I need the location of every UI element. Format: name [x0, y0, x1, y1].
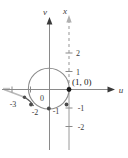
- x-axis-label: x: [62, 6, 67, 16]
- tick-label-u-neg3: -3: [10, 100, 17, 109]
- point-1-0: [67, 87, 72, 92]
- tick-label-x-pos1: 1: [76, 68, 80, 77]
- tick-label-x-neg1: -1: [78, 104, 85, 113]
- pointer-line: [3, 89, 26, 99]
- coordinate-diagram: v x u 0 (1, 0) -1 -2 -3 2 1 -1 -2: [0, 0, 128, 158]
- tick-label-u-neg2: -2: [32, 108, 39, 117]
- v-axis: [47, 17, 53, 150]
- v-axis-label: v: [43, 7, 47, 17]
- arc-tail: [25, 97, 34, 106]
- x-axis-dashed: [66, 15, 71, 150]
- tick-label-u-neg1: -1: [53, 107, 60, 116]
- point-annotation: (1, 0): [72, 77, 92, 87]
- circle-point-c: [65, 103, 69, 107]
- circle-point-a: [47, 107, 51, 111]
- u-axis-label: u: [119, 85, 124, 95]
- u-axis: [2, 87, 115, 93]
- tick-label-x-pos2: 2: [76, 49, 80, 58]
- circle-curve: [28, 68, 69, 109]
- tick-label-x-neg2: -2: [78, 123, 85, 132]
- origin-label: 0: [40, 94, 44, 103]
- figure-container: v x u 0 (1, 0) -1 -2 -3 2 1 -1 -2: [0, 0, 128, 158]
